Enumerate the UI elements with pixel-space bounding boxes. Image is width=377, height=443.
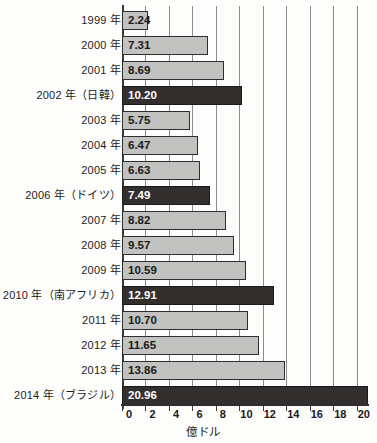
category-label: 2011 年 <box>82 308 121 333</box>
bar-row: 2001 年8.69 <box>0 58 377 83</box>
x-axis-title: 億ドル <box>0 423 377 439</box>
x-tick-6 <box>192 405 193 411</box>
x-tick-2 <box>145 405 146 411</box>
x-tick-label-10: 10 <box>240 408 252 420</box>
bar-value-label: 20.96 <box>128 387 157 404</box>
bar: 7.31 <box>122 36 208 55</box>
bar: 9.57 <box>122 236 234 255</box>
category-label: 2005 年 <box>81 158 121 183</box>
x-tick-4 <box>169 405 170 411</box>
bar-row: 2006 年（ドイツ）7.49 <box>0 183 377 208</box>
bar: 6.47 <box>122 136 198 155</box>
bar-value-label: 13.86 <box>128 362 157 379</box>
bar-row: 2002 年（日韓）10.20 <box>0 83 377 108</box>
bar: 12.91 <box>122 286 274 305</box>
bar-row: 2009 年10.59 <box>0 258 377 283</box>
bar-row: 1999 年2.24 <box>0 8 377 33</box>
bar: 13.86 <box>122 361 285 380</box>
bar: 11.65 <box>122 336 259 355</box>
category-label: 2010 年（南アフリカ） <box>3 283 121 308</box>
bar-value-label: 11.65 <box>128 337 156 354</box>
category-label: 2013 年 <box>81 358 121 383</box>
x-tick-label-6: 6 <box>196 408 202 420</box>
bar-value-label: 9.57 <box>128 237 150 254</box>
category-label: 1999 年 <box>81 8 121 33</box>
bar: 10.70 <box>122 311 248 330</box>
bar-chart: 1999 年2.242000 年7.312001 年8.692002 年（日韓）… <box>0 0 377 443</box>
bar-value-label: 7.49 <box>128 187 150 204</box>
bar: 6.63 <box>122 161 200 180</box>
x-tick-label-20: 20 <box>358 408 370 420</box>
bar: 5.75 <box>122 111 190 130</box>
bar: 10.20 <box>122 86 242 105</box>
bar-row: 2012 年11.65 <box>0 333 377 358</box>
bar-value-label: 2.24 <box>128 12 150 29</box>
bar-value-label: 10.59 <box>128 262 157 279</box>
bar-value-label: 5.75 <box>128 112 150 129</box>
category-label: 2009 年 <box>81 258 121 283</box>
bar: 8.69 <box>122 61 224 80</box>
x-tick-label-4: 4 <box>173 408 179 420</box>
bar-value-label: 12.91 <box>128 287 157 304</box>
x-tick-label-16: 16 <box>311 408 323 420</box>
category-label: 2007 年 <box>81 208 121 233</box>
bar: 7.49 <box>122 186 210 205</box>
bar-value-label: 6.63 <box>128 162 150 179</box>
bar: 10.59 <box>122 261 246 280</box>
bar-row: 2013 年13.86 <box>0 358 377 383</box>
bar-value-label: 8.69 <box>128 62 150 79</box>
x-tick-label-18: 18 <box>334 408 346 420</box>
bar-row: 2011 年10.70 <box>0 308 377 333</box>
x-tick-label-0: 0 <box>126 408 132 420</box>
category-label: 2004 年 <box>81 133 121 158</box>
x-axis: 02468101214161820 <box>0 404 377 422</box>
category-label: 2012 年 <box>81 333 121 358</box>
bar-row: 2008 年9.57 <box>0 233 377 258</box>
bar-row: 2004 年6.47 <box>0 133 377 158</box>
bar: 2.24 <box>122 11 148 30</box>
bar: 20.96 <box>122 386 368 405</box>
category-label: 2000 年 <box>81 33 121 58</box>
category-label: 2008 年 <box>81 233 121 258</box>
bar-row: 2007 年8.82 <box>0 208 377 233</box>
x-tick-label-14: 14 <box>287 408 299 420</box>
category-label: 2001 年 <box>81 58 121 83</box>
x-axis-line <box>121 404 369 406</box>
bar-value-label: 8.82 <box>128 212 150 229</box>
bar-row: 2000 年7.31 <box>0 33 377 58</box>
bar-value-label: 6.47 <box>128 137 150 154</box>
bar-row: 2010 年（南アフリカ）12.91 <box>0 283 377 308</box>
x-tick-8 <box>216 405 217 411</box>
x-tick-label-8: 8 <box>220 408 226 420</box>
category-label: 2002 年（日韓） <box>36 83 121 108</box>
bar-value-label: 10.70 <box>128 312 157 329</box>
x-tick-label-2: 2 <box>149 408 155 420</box>
bar-value-label: 10.20 <box>128 87 157 104</box>
category-label: 2003 年 <box>81 108 121 133</box>
x-tick-label-12: 12 <box>264 408 276 420</box>
bar-row: 2005 年6.63 <box>0 158 377 183</box>
category-label: 2006 年（ドイツ） <box>25 183 121 208</box>
bar: 8.82 <box>122 211 226 230</box>
bar-value-label: 7.31 <box>128 37 150 54</box>
x-tick-0 <box>122 405 123 411</box>
bar-row: 2003 年5.75 <box>0 108 377 133</box>
